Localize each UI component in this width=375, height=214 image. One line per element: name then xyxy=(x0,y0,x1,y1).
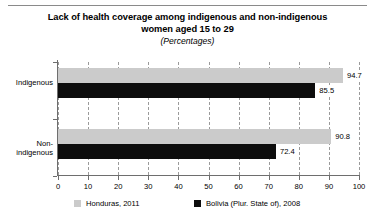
x-tick-70 xyxy=(269,176,270,180)
top-divider xyxy=(8,5,367,6)
bar-non-indigenous-series-1 xyxy=(58,129,331,144)
x-tick-label-90: 90 xyxy=(314,182,344,191)
category-label-line: Indigenous xyxy=(16,78,53,87)
x-tick-label-50: 50 xyxy=(194,182,224,191)
x-tick-90 xyxy=(329,176,330,180)
value-label-85.5: 85.5 xyxy=(318,86,335,95)
category-label-line: indigenous xyxy=(16,148,53,157)
chart-subtitle: (Percentages) xyxy=(20,36,355,47)
legend-swatch-icon xyxy=(194,200,201,207)
y-tick-2 xyxy=(53,176,57,177)
chart-title: Lack of health coverage among indigenous… xyxy=(20,12,355,35)
x-tick-30 xyxy=(148,176,149,180)
bar-non-indigenous-series-2 xyxy=(58,144,276,159)
legend-label: Honduras, 2011 xyxy=(86,199,139,208)
title-block: Lack of health coverage among indigenous… xyxy=(20,12,355,47)
x-tick-0 xyxy=(58,176,59,180)
x-tick-label-10: 10 xyxy=(73,182,103,191)
chart-legend: Honduras, 2011Bolivia (Plur. State of), … xyxy=(58,197,359,209)
value-label-90.8: 90.8 xyxy=(334,132,351,141)
x-tick-label-40: 40 xyxy=(163,182,193,191)
legend-swatch-icon xyxy=(74,200,81,207)
legend-item-2[interactable]: Bolivia (Plur. State of), 2008 xyxy=(194,197,300,209)
value-label-94.7: 94.7 xyxy=(346,71,363,80)
x-tick-40 xyxy=(178,176,179,180)
bar-indigenous-series-2 xyxy=(58,83,315,98)
category-label-line: Non- xyxy=(16,139,53,148)
x-tick-10 xyxy=(88,176,89,180)
x-tick-60 xyxy=(239,176,240,180)
x-tick-label-0: 0 xyxy=(43,182,73,191)
legend-item-1[interactable]: Honduras, 2011 xyxy=(74,197,139,209)
category-label-indigenous: Indigenous xyxy=(16,78,53,87)
x-tick-label-20: 20 xyxy=(103,182,133,191)
legend-label: Bolivia (Plur. State of), 2008 xyxy=(206,199,300,208)
chart-title-line-2: women aged 15 to 29 xyxy=(141,24,234,34)
bar-indigenous-series-1 xyxy=(58,68,343,83)
plot-area: 94.785.590.872.4 xyxy=(58,62,359,175)
x-tick-label-80: 80 xyxy=(284,182,314,191)
x-tick-label-70: 70 xyxy=(254,182,284,191)
x-tick-100 xyxy=(359,176,360,180)
chart-title-line-1: Lack of health coverage among indigenous… xyxy=(48,12,328,22)
x-tick-20 xyxy=(118,176,119,180)
chart-figure: Lack of health coverage among indigenous… xyxy=(0,0,375,214)
x-tick-label-60: 60 xyxy=(224,182,254,191)
y-tick-1 xyxy=(53,119,57,120)
x-tick-label-30: 30 xyxy=(133,182,163,191)
x-tick-label-100: 100 xyxy=(344,182,374,191)
x-tick-80 xyxy=(299,176,300,180)
y-tick-0 xyxy=(53,62,57,63)
x-tick-50 xyxy=(209,176,210,180)
value-label-72.4: 72.4 xyxy=(279,147,296,156)
category-label-non-indigenous: Non-indigenous xyxy=(16,139,53,158)
